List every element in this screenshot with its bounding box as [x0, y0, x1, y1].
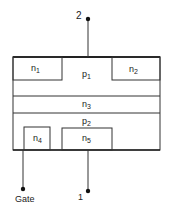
- terminal-1-dot: [86, 189, 90, 193]
- label-n4: n4: [33, 133, 42, 144]
- thyristor-diagram: 2 Gate 1 n1 p1 n2 n3 p2 n4 n5: [0, 0, 170, 213]
- label-n1: n1: [31, 63, 40, 74]
- terminal-2-dot: [86, 17, 90, 21]
- terminal-1-label: 1: [78, 192, 83, 202]
- label-n3: n3: [82, 99, 91, 110]
- label-n5: n5: [82, 133, 91, 144]
- terminal-2-label: 2: [76, 10, 82, 21]
- label-n2: n2: [129, 64, 138, 75]
- label-p2: p2: [82, 116, 91, 127]
- gate-label: Gate: [15, 194, 35, 204]
- gate-dot: [21, 187, 25, 191]
- label-p1: p1: [82, 69, 91, 80]
